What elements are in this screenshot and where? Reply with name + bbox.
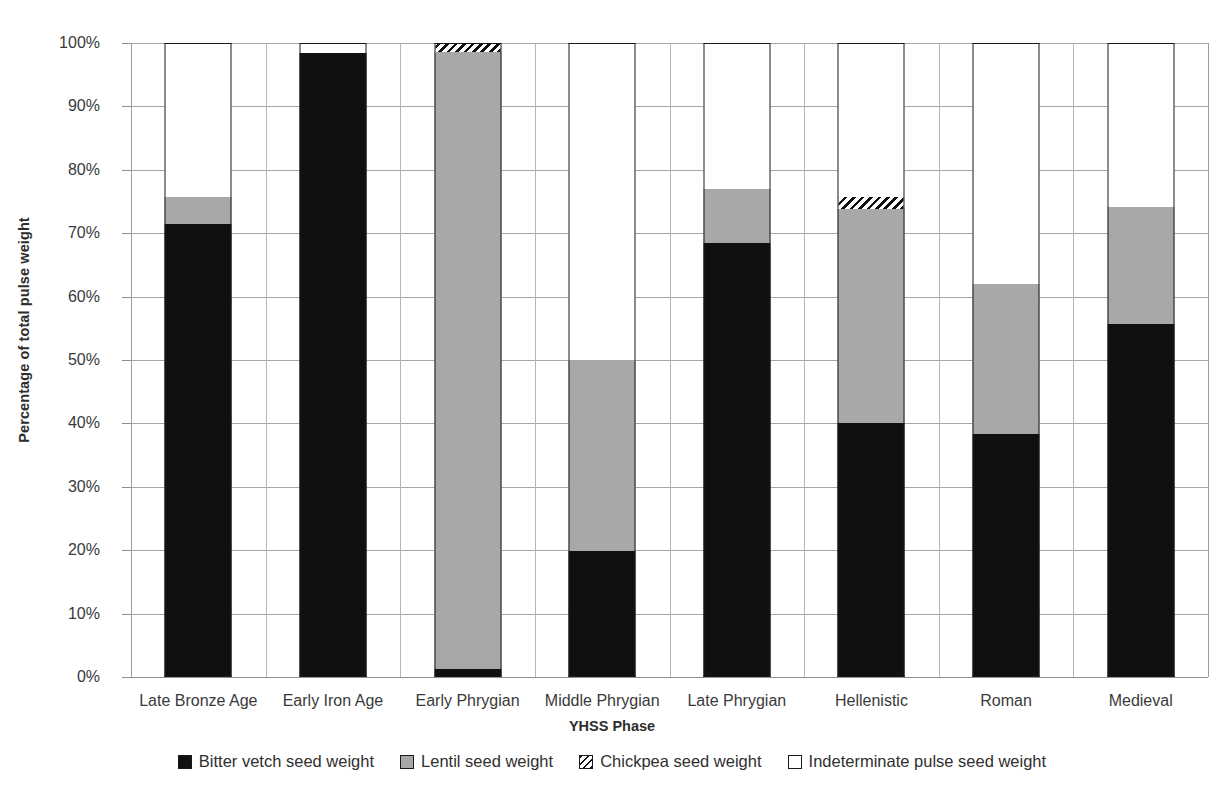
x-tick-label-late-phrygian: Late Phrygian — [670, 692, 805, 710]
bar-segment-indet[interactable] — [973, 43, 1040, 284]
category-separator-8 — [1208, 43, 1209, 677]
bittervetch-swatch-icon — [178, 755, 192, 769]
bar-segment-chickpea[interactable] — [838, 197, 905, 209]
chart-legend: Bitter vetch seed weightLentil seed weig… — [0, 752, 1224, 771]
x-axis-title: YHSS Phase — [0, 718, 1224, 734]
y-tick-mark-50 — [122, 360, 131, 361]
bar-slot-late-phrygian — [670, 43, 805, 677]
plot-area: 0%10%20%30%40%50%60%70%80%90%100% — [131, 43, 1208, 677]
y-tick-label-20%: 20% — [20, 541, 100, 559]
y-tick-label-50%: 50% — [20, 351, 100, 369]
bar-slot-medieval — [1073, 43, 1208, 677]
legend-item-label: Chickpea seed weight — [600, 752, 761, 771]
stacked-bar[interactable] — [165, 43, 232, 677]
bar-segment-indet[interactable] — [299, 43, 366, 53]
stacked-bar[interactable] — [569, 43, 636, 677]
y-tick-mark-0 — [122, 677, 131, 678]
stacked-bar[interactable] — [434, 43, 501, 677]
x-tick-label-hellenistic: Hellenistic — [804, 692, 939, 710]
legend-item-lentil[interactable]: Lentil seed weight — [400, 752, 553, 771]
legend-item-chickpea[interactable]: Chickpea seed weight — [579, 752, 761, 771]
y-tick-mark-40 — [122, 423, 131, 424]
legend-item-bittervetch[interactable]: Bitter vetch seed weight — [178, 752, 374, 771]
gridline-0 — [131, 677, 1208, 678]
bar-slot-early-iron-age — [266, 43, 401, 677]
indeterminate-swatch-icon — [788, 755, 802, 769]
legend-item-label: Lentil seed weight — [421, 752, 553, 771]
stacked-bar[interactable] — [1107, 43, 1174, 677]
bar-segment-bittervetch[interactable] — [703, 243, 770, 677]
bar-segment-bittervetch[interactable] — [299, 53, 366, 677]
chickpea-swatch-icon — [579, 755, 593, 769]
y-tick-mark-90 — [122, 106, 131, 107]
lentil-swatch-icon — [400, 755, 414, 769]
bar-segment-chickpea[interactable] — [434, 43, 501, 52]
bar-slot-hellenistic — [804, 43, 939, 677]
stacked-bar-chart: Percentage of total pulse weight 0%10%20… — [0, 0, 1224, 790]
y-tick-label-40%: 40% — [20, 414, 100, 432]
y-tick-mark-80 — [122, 170, 131, 171]
x-tick-label-medieval: Medieval — [1073, 692, 1208, 710]
bar-segment-lentil[interactable] — [838, 209, 905, 423]
y-tick-label-10%: 10% — [20, 605, 100, 623]
bar-segment-lentil[interactable] — [434, 52, 501, 670]
bar-segment-bittervetch[interactable] — [569, 551, 636, 677]
bar-slot-roman — [939, 43, 1074, 677]
legend-item-label: Bitter vetch seed weight — [199, 752, 374, 771]
bar-segment-indet[interactable] — [165, 43, 232, 197]
bar-segment-lentil[interactable] — [165, 197, 232, 224]
bar-segment-indet[interactable] — [1107, 43, 1174, 207]
bar-segment-bittervetch[interactable] — [165, 224, 232, 677]
bar-slot-late-bronze-age — [131, 43, 266, 677]
bar-segment-lentil[interactable] — [1107, 207, 1174, 324]
bar-segment-lentil[interactable] — [973, 284, 1040, 434]
y-tick-mark-30 — [122, 487, 131, 488]
x-tick-label-roman: Roman — [939, 692, 1074, 710]
stacked-bar[interactable] — [973, 43, 1040, 677]
y-tick-label-80%: 80% — [20, 161, 100, 179]
x-tick-label-late-bronze-age: Late Bronze Age — [131, 692, 266, 710]
bar-segment-indet[interactable] — [569, 43, 636, 360]
y-tick-mark-20 — [122, 550, 131, 551]
bar-slot-middle-phrygian — [535, 43, 670, 677]
y-tick-mark-10 — [122, 614, 131, 615]
bar-segment-indet[interactable] — [838, 43, 905, 197]
y-tick-label-0%: 0% — [20, 668, 100, 686]
bar-segment-lentil[interactable] — [569, 360, 636, 551]
x-tick-label-early-iron-age: Early Iron Age — [266, 692, 401, 710]
bar-segment-bittervetch[interactable] — [434, 669, 501, 677]
bar-segment-lentil[interactable] — [703, 189, 770, 244]
y-axis-title-text: Percentage of total pulse weight — [16, 217, 32, 443]
bar-segment-bittervetch[interactable] — [973, 434, 1040, 677]
y-tick-label-100%: 100% — [20, 34, 100, 52]
bar-segment-bittervetch[interactable] — [1107, 324, 1174, 677]
x-tick-label-middle-phrygian: Middle Phrygian — [535, 692, 670, 710]
bar-segment-indet[interactable] — [703, 43, 770, 189]
legend-item-indet[interactable]: Indeterminate pulse seed weight — [788, 752, 1047, 771]
bar-slot-early-phrygian — [400, 43, 535, 677]
y-tick-label-60%: 60% — [20, 288, 100, 306]
y-tick-mark-100 — [122, 43, 131, 44]
y-tick-label-90%: 90% — [20, 97, 100, 115]
y-tick-mark-60 — [122, 297, 131, 298]
y-tick-label-70%: 70% — [20, 224, 100, 242]
y-tick-label-30%: 30% — [20, 478, 100, 496]
stacked-bar[interactable] — [838, 43, 905, 677]
stacked-bar[interactable] — [703, 43, 770, 677]
y-tick-mark-70 — [122, 233, 131, 234]
stacked-bar[interactable] — [299, 43, 366, 677]
legend-item-label: Indeterminate pulse seed weight — [809, 752, 1047, 771]
x-tick-label-early-phrygian: Early Phrygian — [400, 692, 535, 710]
bar-segment-bittervetch[interactable] — [838, 423, 905, 677]
